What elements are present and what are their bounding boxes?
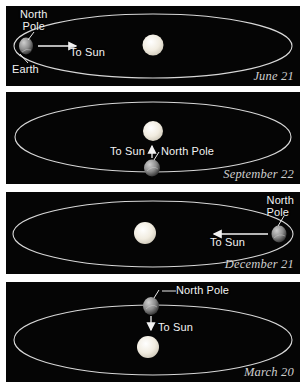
date-label-june: June 21 [253, 69, 294, 84]
north-pole-label: North Pole [267, 195, 294, 218]
earth [144, 160, 160, 177]
earth-label: Earth [12, 64, 39, 76]
north-pole-pointer [154, 152, 159, 160]
to-sun-label: To Sun [110, 146, 145, 158]
sun [134, 222, 156, 244]
north-pole-label: North Pole [20, 9, 47, 32]
north-pole-pointer [154, 290, 159, 298]
sun [137, 336, 159, 358]
date-label-march: March 20 [244, 365, 294, 380]
earth [19, 38, 33, 55]
panel-december: North Pole To Sun December 21 [6, 192, 300, 274]
to-sun-label: To Sun [210, 237, 245, 249]
date-label-september: September 22 [223, 167, 294, 182]
sun [143, 35, 164, 56]
seasons-orbit-figure: North Pole Earth To Sun June 21 [0, 0, 305, 388]
panel-june: North Pole Earth To Sun June 21 [6, 6, 300, 86]
to-sun-label: To Sun [158, 322, 193, 334]
north-pole-pointer [28, 32, 34, 40]
sun [143, 121, 163, 141]
date-label-december: December 21 [225, 257, 294, 272]
panel-september: To Sun North Pole September 22 [6, 92, 300, 184]
panel-march: North Pole To Sun March 20 [6, 282, 300, 382]
north-pole-label: North Pole [161, 146, 214, 158]
north-pole-label: North Pole [176, 285, 229, 297]
earth [272, 226, 287, 243]
to-sun-label: To Sun [70, 47, 105, 59]
earth-pointer [20, 54, 28, 63]
earth [143, 297, 159, 315]
